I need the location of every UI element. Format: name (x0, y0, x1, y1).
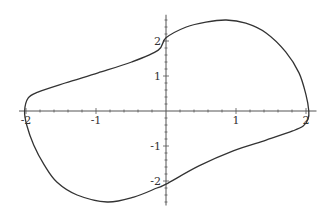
y-tick-label: 1 (154, 70, 161, 83)
x-tick-label: -1 (91, 114, 102, 127)
y-tick-label: -2 (150, 175, 161, 188)
x-tick-label: 1 (233, 114, 240, 127)
y-tick-label: -1 (150, 140, 161, 153)
axes (19, 15, 317, 206)
y-tick-label: 2 (154, 35, 161, 48)
phase-plot: -2-112-2-112 (0, 0, 331, 216)
